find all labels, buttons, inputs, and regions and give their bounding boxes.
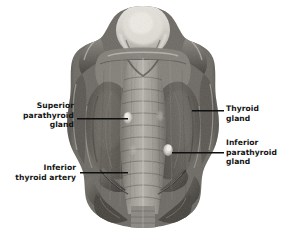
label-superior-parathyroid-gland: Superior parathyroid gland	[14, 101, 74, 130]
anatomy-figure: Superior parathyroid gland Thyroid gland…	[0, 0, 286, 240]
leader-line-inferior-parathyroid	[172, 152, 224, 153]
label-inferior-parathyroid-gland: Inferior parathyroid gland	[226, 138, 284, 167]
leader-line-inferior-thyroid-artery	[80, 172, 128, 173]
label-inferior-thyroid-artery: Inferior thyroid artery	[12, 163, 76, 182]
label-thyroid-gland: Thyroid gland	[226, 104, 282, 123]
leader-line-thyroid-gland	[192, 110, 224, 111]
leader-line-superior-parathyroid	[77, 118, 128, 119]
